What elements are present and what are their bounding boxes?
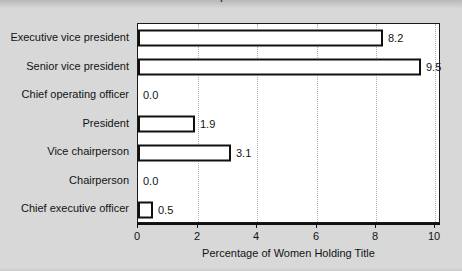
bar-row: 8.2 [138, 24, 439, 53]
x-axis-title: Percentage of Women Holding Title [137, 247, 440, 259]
bar [138, 30, 383, 47]
figure-header-text: FIGURE 12. Women in Executive Leadership… [4, 0, 277, 2]
x-axis-tick-label: 4 [253, 230, 259, 242]
plot-area: 8.2 9.5 0.0 1.9 3.1 0.0 [137, 23, 440, 223]
category-axis-labels: Executive vice president Senior vice pre… [0, 23, 133, 223]
bar-row: 0.0 [138, 167, 439, 196]
bar-value-label: 0.5 [158, 204, 173, 216]
category-label: Vice chairperson [47, 137, 129, 166]
figure-header-band: FIGURE 12. Women in Executive Leadership… [0, 0, 462, 9]
x-axis-tick-label: 10 [428, 230, 440, 242]
x-axis-line [137, 223, 440, 225]
bar-row: 1.9 [138, 110, 439, 139]
bar-row: 0.0 [138, 81, 439, 110]
bar-row: 9.5 [138, 53, 439, 82]
bar-value-label: 3.1 [236, 147, 251, 159]
bar-value-label: 8.2 [388, 32, 403, 44]
figure-container: Executive vice president Senior vice pre… [0, 9, 462, 271]
x-axis-tick-label: 6 [313, 230, 319, 242]
x-axis-tick [197, 223, 198, 228]
x-axis-tick [137, 223, 138, 228]
bar-row: 3.1 [138, 138, 439, 167]
x-axis-tick [256, 223, 257, 228]
bar-rows: 8.2 9.5 0.0 1.9 3.1 0.0 [138, 24, 439, 222]
bar-value-label: 0.0 [143, 89, 158, 101]
category-label: Senior vice president [26, 52, 129, 81]
category-label: President [83, 109, 129, 138]
x-axis-tick-label: 2 [194, 230, 200, 242]
bar-value-label: 0.0 [143, 175, 158, 187]
bar-value-label: 1.9 [200, 118, 215, 130]
x-axis-tick-label: 8 [372, 230, 378, 242]
bar [138, 201, 153, 218]
x-axis-tick [375, 223, 376, 228]
x-axis-tick [434, 223, 435, 228]
category-label: Chairperson [69, 166, 129, 195]
bar [138, 115, 195, 132]
x-axis-tick [316, 223, 317, 228]
bar [138, 144, 231, 161]
category-label: Executive vice president [10, 23, 129, 52]
bar-row: 0.5 [138, 195, 439, 224]
category-label: Chief executive officer [21, 194, 129, 223]
bar [138, 58, 421, 75]
bar-value-label: 9.5 [426, 61, 441, 73]
category-label: Chief operating officer [22, 80, 129, 109]
x-axis-tick-label: 0 [134, 230, 140, 242]
